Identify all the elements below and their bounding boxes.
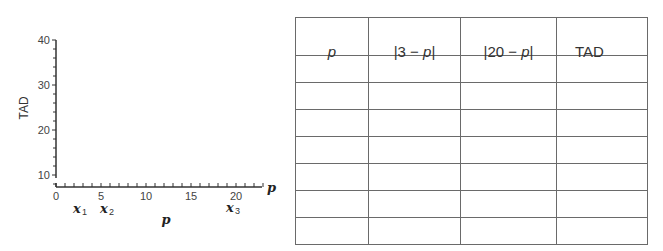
cell-tad bbox=[557, 191, 648, 218]
cell-abs-3-minus-p bbox=[369, 137, 461, 164]
table-row bbox=[296, 83, 648, 110]
x-axis-title: p bbox=[161, 212, 170, 227]
y-axis: 10203040 bbox=[38, 34, 56, 184]
tad-chart: 10203040 05101520 TAD p p x1x2x3 bbox=[0, 0, 290, 251]
cell-abs-20-minus-p bbox=[461, 218, 557, 245]
table-header-row: p |3 − p| |20 − p| TAD bbox=[296, 18, 648, 56]
table-row bbox=[296, 164, 648, 191]
y-tick-label: 10 bbox=[38, 169, 50, 181]
x-annotation-1: x1 bbox=[72, 201, 87, 217]
cell-abs-3-minus-p bbox=[369, 110, 461, 137]
cell-p bbox=[296, 83, 369, 110]
header-tad: TAD bbox=[557, 18, 648, 56]
cell-p bbox=[296, 137, 369, 164]
x-annotation-3: x3 bbox=[225, 200, 240, 216]
cell-abs-20-minus-p bbox=[461, 137, 557, 164]
y-axis-title: TAD bbox=[17, 96, 31, 119]
cell-abs-20-minus-p bbox=[461, 83, 557, 110]
cell-p bbox=[296, 110, 369, 137]
y-tick-label: 40 bbox=[38, 34, 50, 46]
table-row bbox=[296, 218, 648, 245]
x-annotations: x1x2x3 bbox=[72, 200, 240, 217]
y-tick-label: 30 bbox=[38, 79, 50, 91]
cell-tad bbox=[557, 83, 648, 110]
x-annotation-2: x2 bbox=[99, 201, 114, 217]
cell-abs-20-minus-p bbox=[461, 164, 557, 191]
x-axis-end-label: p bbox=[267, 180, 276, 195]
table-row bbox=[296, 191, 648, 218]
cell-tad bbox=[557, 137, 648, 164]
cell-abs-3-minus-p bbox=[369, 191, 461, 218]
cell-p bbox=[296, 164, 369, 191]
cell-abs-20-minus-p bbox=[461, 191, 557, 218]
header-abs-20-minus-p: |20 − p| bbox=[461, 18, 557, 56]
y-tick-label: 20 bbox=[38, 124, 50, 136]
cell-tad bbox=[557, 110, 648, 137]
cell-p bbox=[296, 218, 369, 245]
header-abs-3-minus-p: |3 − p| bbox=[369, 18, 461, 56]
table-row bbox=[296, 110, 648, 137]
x-tick-label: 15 bbox=[185, 190, 197, 202]
table-body bbox=[296, 56, 648, 245]
cell-abs-3-minus-p bbox=[369, 164, 461, 191]
cell-tad bbox=[557, 218, 648, 245]
x-tick-label: 0 bbox=[53, 190, 59, 202]
x-tick-label: 10 bbox=[140, 190, 152, 202]
header-p: p bbox=[296, 18, 369, 56]
tad-table: p |3 − p| |20 − p| TAD bbox=[295, 17, 648, 245]
cell-p bbox=[296, 191, 369, 218]
table-row bbox=[296, 137, 648, 164]
chart-svg: 10203040 05101520 TAD p p x1x2x3 bbox=[0, 0, 290, 251]
cell-tad bbox=[557, 164, 648, 191]
cell-abs-3-minus-p bbox=[369, 218, 461, 245]
cell-abs-3-minus-p bbox=[369, 83, 461, 110]
tad-table-container: p |3 − p| |20 − p| TAD bbox=[295, 17, 648, 245]
cell-abs-20-minus-p bbox=[461, 110, 557, 137]
